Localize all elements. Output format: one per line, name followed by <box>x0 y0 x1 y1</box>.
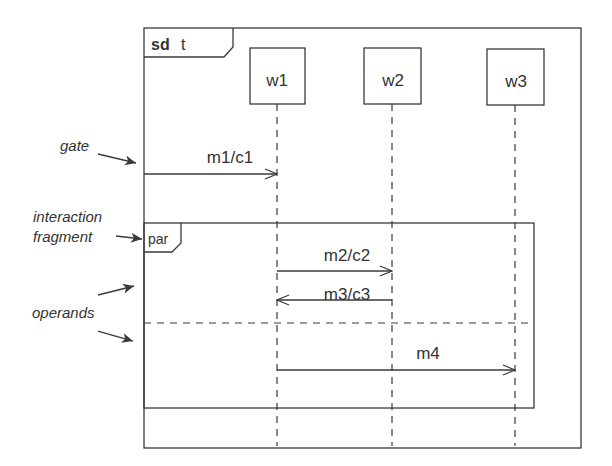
arrow-icon <box>98 154 136 163</box>
message-m1[interactable]: m1/c1 <box>144 148 277 174</box>
lifeline-w2[interactable]: w2 <box>364 48 421 446</box>
message-label: m2/c2 <box>324 246 370 265</box>
arrow-icon <box>98 331 133 341</box>
frame-name: t <box>181 36 186 53</box>
message-label: m1/c1 <box>207 148 253 167</box>
annotation-text: operands <box>32 304 95 321</box>
message-m2[interactable]: m2/c2 <box>277 246 392 271</box>
annotation-text: gate <box>60 137 89 154</box>
frame-keyword: sd <box>151 36 170 53</box>
annotation-text: fragment <box>33 228 93 245</box>
annotation-operands: operands <box>32 286 134 341</box>
message-label: m4 <box>416 344 440 363</box>
message-label: m3/c3 <box>324 285 370 304</box>
lifeline-w1[interactable]: w1 <box>250 48 305 446</box>
lifeline-w3[interactable]: w3 <box>487 49 544 446</box>
message-m4[interactable]: m4 <box>277 344 515 370</box>
sequence-diagram: sd t w1 w2 w3 m1/c1 par m2/c2 m3/c3 <box>0 0 612 466</box>
arrow-icon <box>98 286 134 295</box>
annotation-text: interaction <box>33 208 102 225</box>
message-m3[interactable]: m3/c3 <box>277 285 392 304</box>
fragment-operator: par <box>148 231 169 247</box>
annotation-interaction-fragment: interaction fragment <box>33 208 142 245</box>
annotation-gate: gate <box>60 137 136 163</box>
lifeline-label: w3 <box>504 72 527 91</box>
lifeline-label: w2 <box>381 71 404 90</box>
lifeline-label: w1 <box>265 71 288 90</box>
arrow-icon <box>116 236 142 239</box>
